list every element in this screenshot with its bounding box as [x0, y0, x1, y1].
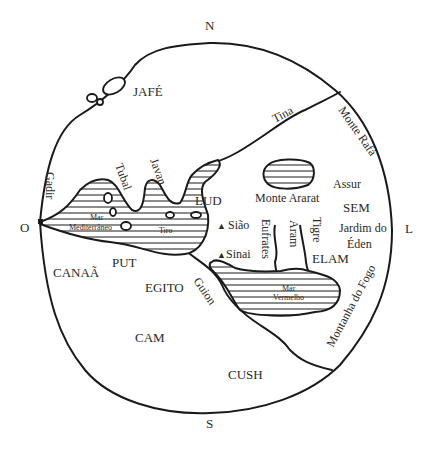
label-tigre: Tigre	[310, 217, 324, 243]
label-ararat: Monte Ararat	[255, 191, 320, 205]
eufrates-river	[274, 225, 281, 277]
label-cush: CUSH	[228, 367, 263, 382]
compass-south: S	[206, 416, 213, 431]
label-canaa: CANAÃ	[53, 265, 100, 280]
label-sinai: Sinai	[226, 247, 251, 261]
label-elam: ELAM	[312, 251, 349, 266]
tina-border	[215, 92, 340, 162]
map-canvas: N S L O JAFÉ SEM CAM CANAÃ PUT EGITO CUS…	[0, 0, 433, 453]
mountain-siao-icon: ▲	[217, 221, 226, 231]
world-map: N S L O JAFÉ SEM CAM CANAÃ PUT EGITO CUS…	[0, 0, 433, 453]
label-aram: Aram	[287, 220, 301, 248]
med-island-3	[121, 222, 131, 230]
label-rafa: Monte Rafá	[336, 104, 381, 159]
label-gadir: Gadir	[43, 172, 57, 199]
label-eufrates: Eufrates	[259, 219, 273, 259]
label-siao: Sião	[228, 218, 249, 232]
label-guion: Guion	[191, 275, 220, 308]
label-lud: LUD	[195, 193, 222, 208]
ararat-lake	[264, 159, 314, 188]
island-small-1	[87, 94, 97, 102]
label-red-line2: Vermelho	[273, 293, 304, 302]
label-put: PUT	[112, 255, 137, 270]
label-med-line1: Mar	[90, 213, 104, 222]
label-red-line1: Mar	[282, 284, 296, 293]
med-island-4	[166, 212, 174, 218]
label-assur: Assur	[333, 177, 361, 191]
compass-north: N	[205, 18, 215, 33]
island-small-2	[97, 99, 103, 105]
label-med-line2: Mediterrâneo	[69, 223, 112, 232]
label-egito: EGITO	[145, 280, 184, 295]
med-island-2	[110, 208, 116, 216]
label-jafe: JAFÉ	[133, 84, 163, 99]
label-cam: CAM	[135, 330, 165, 345]
compass-east: L	[405, 221, 413, 236]
mountain-sinai-icon: ▲	[217, 250, 226, 260]
label-jardim-line2: Éden	[347, 237, 372, 251]
med-island-1	[104, 193, 112, 203]
compass-west: O	[20, 220, 29, 235]
gadir-marker	[38, 219, 43, 224]
label-sem: SEM	[343, 200, 370, 215]
island-large	[100, 74, 128, 98]
label-tiro: Tiro	[159, 226, 173, 235]
label-jardim-line1: Jardim do	[339, 221, 387, 235]
med-island-5	[191, 212, 201, 218]
